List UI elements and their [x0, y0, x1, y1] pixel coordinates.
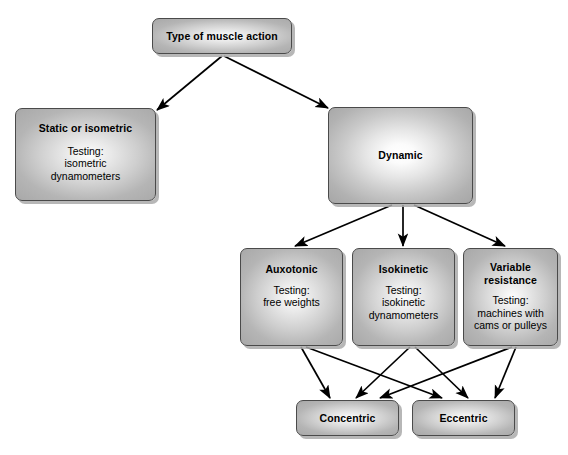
edge-root-dynamic	[224, 56, 328, 108]
node-title: Variableresistance	[484, 261, 537, 286]
edge-auxotonic-eccentric	[306, 347, 442, 398]
edge-isokinetic-concentric	[356, 347, 410, 398]
node-body: Testing:isokineticdynamometers	[369, 284, 438, 322]
node-eccentric[interactable]: Eccentric	[412, 400, 515, 436]
node-body: Testing:isometricdynamometers	[51, 145, 120, 183]
node-body: Testing:free weights	[263, 284, 320, 309]
edge-dynamic-auxotonic	[295, 205, 392, 246]
node-isokinetic[interactable]: Isokinetic Testing:isokineticdynamometer…	[352, 248, 455, 346]
edge-isokinetic-eccentric	[415, 347, 468, 398]
diagram-canvas: Type of muscle action Static or isometri…	[0, 0, 568, 455]
node-body: Testing:machines withcams or pulleys	[474, 294, 547, 332]
node-dynamic[interactable]: Dynamic	[328, 107, 473, 204]
node-variable-resistance[interactable]: Variableresistance Testing:machines with…	[463, 248, 558, 346]
edge-variable-concentric	[380, 347, 512, 398]
node-concentric[interactable]: Concentric	[296, 400, 399, 436]
node-title: Concentric	[320, 412, 376, 425]
node-auxotonic[interactable]: Auxotonic Testing:free weights	[240, 248, 343, 346]
node-title: Dynamic	[378, 149, 422, 162]
node-title: Static or isometric	[39, 122, 133, 135]
node-title: Isokinetic	[379, 263, 428, 276]
node-title: Eccentric	[439, 412, 487, 425]
node-static-or-isometric[interactable]: Static or isometric Testing:isometricdyn…	[15, 108, 156, 201]
edge-dynamic-variable	[414, 205, 505, 246]
node-title: Auxotonic	[265, 263, 317, 276]
edge-root-static	[157, 56, 222, 110]
edge-auxotonic-concentric	[301, 347, 330, 398]
edge-variable-eccentric	[495, 347, 516, 398]
node-title: Type of muscle action	[166, 30, 278, 43]
node-type-of-muscle-action[interactable]: Type of muscle action	[152, 18, 292, 54]
arrow-layer	[0, 0, 568, 455]
